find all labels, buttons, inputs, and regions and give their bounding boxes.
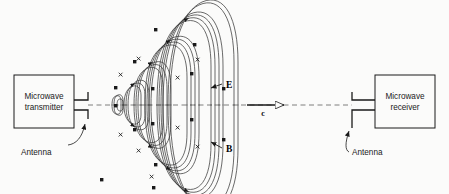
transmitter-antenna-label: Antenna [21,148,52,157]
transmitter-label-line1: Microwave [24,92,64,101]
receiver-antenna-leader [346,131,349,152]
receiver-label-line2: receiver [390,103,419,112]
b-field-label: B [226,144,233,154]
e-field-leader [211,84,222,88]
receiver-box [375,75,435,128]
field-loops-upper [112,0,238,105]
transmitter-box [14,75,74,128]
microwave-radiation-diagram: Microwave transmitter Antenna Microwave … [0,0,449,194]
speed-label: c [261,109,265,118]
transmitter-label-line2: transmitter [25,103,64,112]
transmitter-antenna [74,92,88,119]
transmitter-antenna-leader [68,124,85,145]
electromagnetic-field-pattern [100,0,238,194]
b-field-leader [211,142,222,148]
receiver-antenna [352,92,375,128]
e-field-label: E [226,80,232,90]
propagation-speed-indicator: c [247,105,284,118]
receiver-label-line1: Microwave [385,92,425,101]
receiver-antenna-label: Antenna [352,148,383,157]
b-field-annotation: B [211,142,233,154]
receiver-group: Microwave receiver Antenna [346,75,435,157]
field-loops-lower [112,105,238,194]
transmitter-group: Microwave transmitter Antenna [14,75,88,157]
e-field-annotation: E [211,80,232,90]
